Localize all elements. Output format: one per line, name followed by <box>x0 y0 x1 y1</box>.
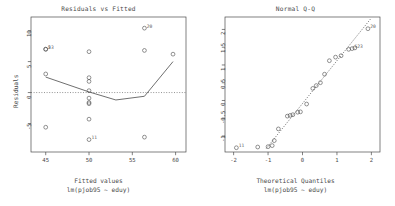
point-label: 20 <box>370 24 376 29</box>
x-tick-label: -2 <box>230 157 237 163</box>
y-tick-label: 1 <box>220 68 226 71</box>
x-tick-label: 0 <box>301 157 304 163</box>
x-tick-label: 50 <box>86 157 93 163</box>
normal-qq-canvas <box>197 0 394 206</box>
x-tick-label: 55 <box>129 157 136 163</box>
x-axis-label: Theoretical Quantiles <box>197 177 394 184</box>
y-tick-label: -5 <box>26 123 32 130</box>
x-tick-label: 1 <box>335 157 338 163</box>
x-axis-sublabel: lm(pjob95 ~ eduy) <box>197 186 394 193</box>
x-axis-sublabel: lm(pjob95 ~ eduy) <box>0 186 197 193</box>
y-tick-label: 10 <box>26 30 32 37</box>
y-tick-label: 0 <box>220 103 226 106</box>
point-label: 23 <box>357 44 363 49</box>
y-tick-label: -0.5 <box>220 111 226 124</box>
point-label: 20 <box>147 24 153 29</box>
x-tick-label: -1 <box>265 157 272 163</box>
panel-normal-qq: Normal Q-Q Standardized residuals Theore… <box>197 0 394 206</box>
x-tick-label: 60 <box>172 157 179 163</box>
y-tick-label: 2 <box>220 32 226 35</box>
x-tick-label: 2 <box>370 157 373 163</box>
y-tick-label: 1.5 <box>220 43 226 53</box>
point-label: 23 <box>48 45 54 50</box>
y-tick-label: 0 <box>26 95 32 98</box>
point-label: 11 <box>239 143 245 148</box>
y-tick-label: -1 <box>220 135 226 142</box>
x-axis-label: Fitted values <box>0 177 197 184</box>
y-tick-label: 5 <box>26 64 32 67</box>
point-label: 11 <box>91 135 97 140</box>
panel-residuals-vs-fitted: Residuals vs Fitted Residuals Fitted val… <box>0 0 197 206</box>
r-diagnostic-plot-figure: Residuals vs Fitted Residuals Fitted val… <box>0 0 395 206</box>
y-axis-label: Residuals <box>12 74 19 108</box>
x-tick-label: 45 <box>42 157 49 163</box>
y-tick-label: 0.5 <box>220 79 226 89</box>
